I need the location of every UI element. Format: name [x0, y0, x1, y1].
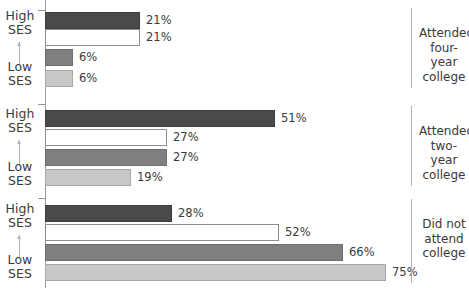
bar-value-label: 21% — [146, 32, 172, 44]
bar-segment[interactable] — [45, 244, 343, 261]
bar-row: 27% — [45, 149, 469, 166]
chart-group-two-year: High SES Low SES 51% 27% 27% 19% Attende… — [0, 96, 469, 195]
bar-row: 51% — [45, 110, 469, 127]
ses-low-label: Low SES — [0, 61, 40, 94]
section-caption-line2: four-year — [419, 41, 469, 70]
section-caption: Attended two-year college — [419, 124, 469, 182]
section-caption-line1: Attended — [419, 26, 469, 41]
bar-row: 66% — [45, 244, 469, 261]
ses-high-line2: SES — [0, 122, 40, 135]
bar-segment[interactable] — [45, 169, 131, 186]
bar-row: 19% — [45, 169, 469, 186]
bar-value-label: 27% — [173, 152, 199, 164]
chart-group-four-year: High SES Low SES 21% 21% 6% 6% Attended … — [0, 0, 469, 96]
ses-low-label: Low SES — [0, 254, 40, 286]
section-caption-line2: two-year — [419, 139, 469, 168]
bar-row: 27% — [45, 129, 469, 146]
section-caption-line3: college — [419, 70, 469, 85]
bar-value-label: 28% — [178, 208, 204, 220]
bar-row: 21% — [45, 12, 469, 29]
bar-value-label: 21% — [146, 15, 172, 27]
axis-tick — [38, 104, 45, 105]
bar-segment[interactable] — [45, 129, 167, 146]
bar-row: 6% — [45, 49, 469, 66]
bar-segment[interactable] — [45, 29, 140, 46]
bar-segment[interactable] — [45, 110, 275, 127]
section-caption-line3: college — [419, 246, 469, 261]
bar-segment[interactable] — [45, 49, 73, 66]
bar-row: 6% — [45, 70, 469, 87]
bar-segment[interactable] — [45, 224, 279, 241]
axis-tick — [38, 198, 45, 199]
section-caption-line1: Did not — [419, 217, 469, 232]
ses-high-label: High SES — [0, 203, 40, 229]
ses-high-label: High SES — [0, 108, 40, 134]
ses-low-line2: SES — [0, 175, 40, 188]
section-caption-line2: attend — [419, 232, 469, 247]
bar-value-label: 6% — [79, 52, 97, 64]
chart-group-no-college: High SES Low SES 28% 52% 66% 75% Did not… — [0, 195, 469, 288]
bar-segment[interactable] — [45, 12, 140, 29]
bar-row: 21% — [45, 29, 469, 46]
bar-row: 75% — [45, 264, 469, 281]
ses-high-line1: High — [5, 201, 34, 216]
section-caption: Did not attend college — [419, 217, 469, 261]
ses-high-line2: SES — [0, 217, 40, 230]
ses-high-line1: High — [5, 8, 34, 23]
bar-segment[interactable] — [45, 70, 73, 87]
bar-segment[interactable] — [45, 149, 167, 166]
bar-value-label: 19% — [137, 172, 163, 184]
ses-low-line2: SES — [0, 268, 40, 281]
ses-low-line1: Low — [8, 252, 33, 267]
bar-value-label: 27% — [173, 132, 199, 144]
bar-segment[interactable] — [45, 205, 172, 222]
bar-value-label: 75% — [392, 267, 418, 279]
bar-value-label: 66% — [349, 247, 375, 259]
section-separator — [411, 199, 412, 283]
bar-row: 52% — [45, 224, 469, 241]
ses-high-line1: High — [5, 106, 34, 121]
bar-value-label: 6% — [79, 73, 97, 85]
section-caption-line1: Attended — [419, 124, 469, 139]
ses-low-label: Low SES — [0, 161, 40, 193]
section-caption: Attended four-year college — [419, 26, 469, 84]
bar-row: 28% — [45, 205, 469, 222]
bar-segment[interactable] — [45, 264, 386, 281]
ses-low-line2: SES — [0, 75, 40, 88]
section-caption-line3: college — [419, 168, 469, 183]
bar-value-label: 52% — [285, 227, 311, 239]
ses-low-line1: Low — [8, 59, 33, 74]
bar-value-label: 51% — [281, 113, 307, 125]
grouped-bar-chart: High SES Low SES 21% 21% 6% 6% Attended … — [0, 0, 469, 288]
ses-low-line1: Low — [8, 159, 33, 174]
section-separator — [411, 8, 412, 88]
section-separator — [411, 106, 412, 186]
ses-high-label: High SES — [0, 10, 40, 36]
ses-high-line2: SES — [0, 24, 40, 37]
